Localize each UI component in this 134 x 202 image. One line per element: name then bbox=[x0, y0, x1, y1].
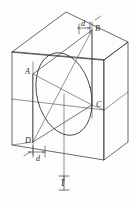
mid-horizontal-line bbox=[12, 92, 128, 110]
technical-drawing-figure: A B C D d d I bbox=[0, 0, 134, 202]
label-dimension-top: d bbox=[81, 20, 85, 28]
label-point-d: D bbox=[25, 137, 31, 145]
label-point-b: B bbox=[95, 25, 100, 33]
projector-lines bbox=[33, 22, 92, 182]
figure-svg bbox=[0, 0, 134, 202]
label-point-c: C bbox=[96, 101, 101, 109]
label-bottom-marker: I bbox=[61, 178, 64, 188]
label-point-a: A bbox=[25, 68, 30, 76]
label-dimension-bottom: d bbox=[36, 155, 40, 163]
cuboid-top-face bbox=[12, 12, 128, 60]
plane-diagonals bbox=[33, 30, 92, 142]
